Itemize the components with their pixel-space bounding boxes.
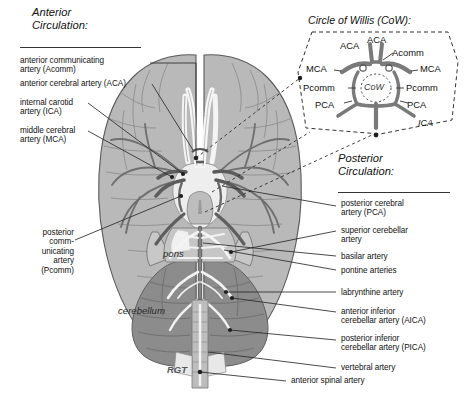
label-posterior-inferior-cerebellar-artery: posterior inferior cerebellar artery (PI… [341,334,465,353]
label-superior-cerebellar-artery: superior cerebellar artery [341,226,463,245]
label-middle-cerebral-artery: middle cerebral artery (MCA) [20,126,130,145]
label-anterior-communicating-artery: anterior communicating artery (Acomm) [20,56,155,75]
artist-signature: RGT [167,364,187,375]
figure-canvas: Anterior Circulation: anterior communica… [0,0,465,399]
cow-label-pca-left: PCA [315,99,334,110]
label-posterior-cerebral-artery: posterior cerebral artery (PCA) [341,199,463,218]
posterior-circulation-heading: Posterior Circulation: [338,152,394,177]
label-posterior-communicating-artery: posterior comm- unicating artery (Pcomm) [8,228,74,275]
cow-label-pcomm-right: Pcomm [406,82,438,93]
label-basilar-artery: basilar artery [341,252,463,261]
label-cerebellum: cerebellum [118,305,165,316]
label-anterior-spinal-artery: anterior spinal artery [291,376,421,385]
posterior-heading-rule [338,192,450,193]
label-anterior-cerebral-artery: anterior cerebral artery (ACA) [20,79,170,88]
cow-label-mca-left: MCA [306,63,327,74]
label-vertebral-artery: vertebral artery [341,363,463,372]
cow-label-ica: ICA [418,118,433,128]
label-internal-carotid-artery: internal carotid artery (ICA) [20,98,130,117]
cow-label-aca-left: ACA [340,40,359,51]
cow-label-pcomm-left: Pcomm [303,82,335,93]
cow-label-pca-right: PCA [407,99,426,110]
label-anterior-inferior-cerebellar-artery: anterior inferior cerebellar artery (AIC… [341,307,465,326]
cow-label-acomm: Acomm [392,47,424,58]
anterior-circulation-heading: Anterior Circulation: [32,6,88,31]
label-pons: pons [163,248,184,259]
cow-label-aca-right: ACA [367,34,386,45]
label-pontine-arteries: pontine arteries [341,266,463,275]
cow-center-label: CoW [364,82,384,92]
label-labrynthine-artery: labrynthine artery [341,288,463,297]
cow-label-mca-right: MCA [420,63,441,74]
cow-inset-title: Circle of Willis (CoW): [308,14,411,26]
anterior-heading-rule [20,47,141,48]
